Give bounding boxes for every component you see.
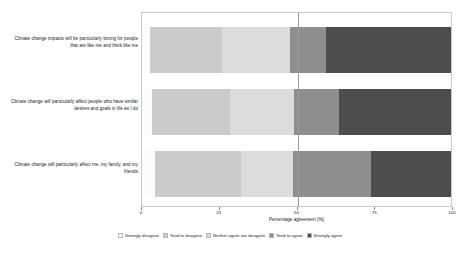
bar-segment — [142, 151, 155, 197]
bar-segment — [371, 151, 451, 197]
legend-item[interactable]: Tend to agree — [269, 233, 303, 238]
bar-segment — [150, 27, 222, 73]
bar-row — [142, 89, 451, 135]
bar-segment — [290, 27, 326, 73]
bar-segment — [152, 89, 230, 135]
legend-item[interactable]: Strongly agree — [307, 233, 342, 238]
x-tick-label: 50 — [294, 210, 299, 215]
x-tick-label: 100 — [448, 210, 455, 215]
reference-line-50 — [298, 13, 299, 206]
plot-area — [141, 12, 452, 207]
legend-swatch-icon — [269, 233, 274, 238]
bar-segment — [142, 27, 150, 73]
x-tick-label: 25 — [216, 210, 221, 215]
bar-segment — [222, 27, 290, 73]
x-axis-title: Percentage agreement (%) — [141, 217, 452, 222]
bar-segment — [294, 89, 339, 135]
bar-row — [142, 27, 451, 73]
legend-swatch-icon — [206, 233, 211, 238]
legend-label: Tend to agree — [276, 233, 303, 238]
x-tick-label: 0 — [140, 210, 142, 215]
legend-swatch-icon — [118, 233, 123, 238]
legend-item[interactable]: Neither agree nor disagree — [206, 233, 265, 238]
category-label-1: Climate change will particularly affect … — [6, 99, 141, 112]
bar-segment — [339, 89, 451, 135]
legend-label: Neither agree nor disagree — [213, 233, 265, 238]
legend-label: Strongly disagree — [125, 233, 159, 238]
plot-inner — [142, 13, 451, 206]
legend-label: Tend to disagree — [170, 233, 202, 238]
legend-label: Strongly agree — [314, 233, 343, 238]
legend-item[interactable]: Strongly disagree — [118, 233, 159, 238]
bar-segment — [155, 151, 241, 197]
legend-swatch-icon — [307, 233, 312, 238]
bar-segment — [142, 89, 152, 135]
bar-segment — [326, 27, 451, 73]
category-label-2: Climate change will particularly affect … — [6, 162, 141, 175]
category-label-0: Climate change impacts will be particula… — [6, 36, 141, 49]
chart-legend: Strongly disagreeTend to disagreeNeither… — [0, 233, 460, 238]
bar-row — [142, 151, 451, 197]
bar-segment — [293, 151, 371, 197]
legend-swatch-icon — [163, 233, 168, 238]
stacked-bar-chart: Climate change impacts will be particula… — [0, 0, 460, 256]
legend-item[interactable]: Tend to disagree — [163, 233, 202, 238]
x-tick-label: 75 — [372, 210, 377, 215]
bar-segment — [241, 151, 293, 197]
bar-segment — [230, 89, 294, 135]
